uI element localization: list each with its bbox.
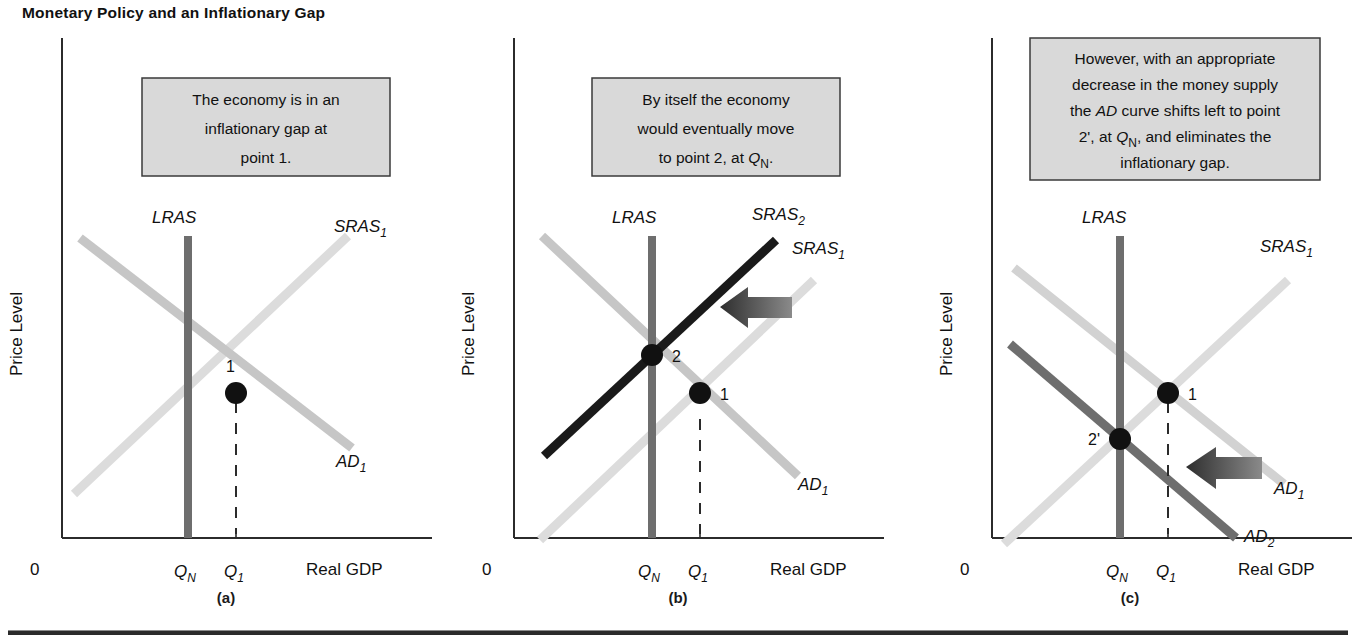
panel-a-caption-line-1: The economy is in an bbox=[192, 91, 339, 108]
panel-a-point-1 bbox=[225, 382, 247, 404]
panel-c-chart: However, with an appropriate decrease in… bbox=[904, 24, 1356, 614]
panel-c-label-ad2: AD2 bbox=[1243, 527, 1275, 550]
panel-c-caption-box: However, with an appropriate decrease in… bbox=[1030, 38, 1320, 180]
panel-c-y-axis-label: Price Level bbox=[937, 292, 956, 376]
panel-a-label-lras: LRAS bbox=[152, 208, 197, 227]
panel-b-point-2 bbox=[641, 344, 663, 366]
panel-b: By itself the economy would eventually m… bbox=[452, 24, 904, 624]
panel-c-x-axis-label: Real GDP bbox=[1238, 560, 1315, 579]
panel-c-caption-line-2: decrease in the money supply bbox=[1072, 76, 1278, 93]
panel-b-point-1-label: 1 bbox=[720, 386, 729, 403]
panel-a-xtick-qn: QN bbox=[174, 562, 196, 585]
panel-b-curve-ad1 bbox=[542, 236, 798, 476]
panel-c-caption-line-5: inflationary gap. bbox=[1120, 154, 1229, 171]
panel-a-label-ad1: AD1 bbox=[335, 452, 366, 475]
panel-a-origin-label: 0 bbox=[30, 560, 39, 579]
panel-b-caption-box: By itself the economy would eventually m… bbox=[592, 78, 840, 176]
panel-c-label-sras1: SRAS1 bbox=[1260, 237, 1313, 260]
panel-b-point-1 bbox=[689, 382, 711, 404]
panel-a: The economy is in an inflationary gap at… bbox=[0, 24, 452, 624]
panel-b-y-axis-label: Price Level bbox=[459, 292, 478, 376]
panel-c-xtick-q1: Q1 bbox=[1156, 562, 1176, 585]
panel-c-point-1-label: 1 bbox=[1188, 386, 1197, 403]
panel-c-label: (c) bbox=[904, 589, 1356, 606]
panel-c-caption-line-1: However, with an appropriate bbox=[1075, 50, 1276, 67]
figure-title: Monetary Policy and an Inflationary Gap bbox=[22, 4, 325, 22]
panel-c: However, with an appropriate decrease in… bbox=[904, 24, 1356, 624]
panel-b-xtick-q1: Q1 bbox=[688, 562, 708, 585]
panel-c-label-lras: LRAS bbox=[1082, 208, 1127, 227]
panel-b-caption-line-2: would eventually move bbox=[637, 120, 795, 137]
panel-a-curve-sras1 bbox=[74, 236, 348, 494]
panel-b-caption-line-1: By itself the economy bbox=[642, 91, 790, 108]
panel-c-xtick-qn: QN bbox=[1106, 562, 1128, 585]
panel-a-label: (a) bbox=[0, 589, 452, 606]
panel-b-shift-arrow-icon bbox=[720, 287, 792, 328]
panel-a-xtick-q1: Q1 bbox=[224, 562, 244, 585]
panel-a-chart: The economy is in an inflationary gap at… bbox=[0, 24, 452, 614]
panel-a-caption-box: The economy is in an inflationary gap at… bbox=[142, 78, 390, 176]
panel-c-caption-line-3: the AD curve shifts left to point bbox=[1070, 102, 1281, 119]
panel-c-curve-ad1 bbox=[1014, 268, 1284, 484]
panel-c-label-ad1: AD1 bbox=[1273, 479, 1304, 502]
panel-b-label-sras2: SRAS2 bbox=[752, 205, 805, 228]
panel-b-curve-sras1 bbox=[540, 280, 814, 540]
panel-b-label-ad1: AD1 bbox=[797, 475, 828, 498]
bottom-divider bbox=[8, 630, 1348, 635]
panel-b-origin-label: 0 bbox=[482, 560, 491, 579]
panel-b-label-lras: LRAS bbox=[612, 208, 657, 227]
panel-b-label-sras1: SRAS1 bbox=[792, 239, 845, 262]
panel-a-y-axis-label: Price Level bbox=[7, 292, 26, 376]
panel-a-caption-line-2: inflationary gap at bbox=[205, 120, 328, 137]
panel-b-point-2-label: 2 bbox=[672, 348, 681, 365]
panel-c-point-2prime-label: 2' bbox=[1088, 431, 1100, 448]
panel-b-xtick-qn: QN bbox=[638, 562, 660, 585]
panel-c-point-1 bbox=[1157, 382, 1179, 404]
panel-a-x-axis-label: Real GDP bbox=[306, 560, 383, 579]
panel-b-label: (b) bbox=[452, 589, 904, 606]
panel-a-point-1-label: 1 bbox=[226, 358, 235, 375]
panel-c-point-2prime bbox=[1109, 428, 1131, 450]
panel-b-chart: By itself the economy would eventually m… bbox=[452, 24, 904, 614]
panel-c-curve-sras1 bbox=[1004, 280, 1288, 544]
panel-b-x-axis-label: Real GDP bbox=[770, 560, 847, 579]
panel-c-origin-label: 0 bbox=[960, 560, 969, 579]
panel-a-caption-line-3: point 1. bbox=[241, 149, 292, 166]
